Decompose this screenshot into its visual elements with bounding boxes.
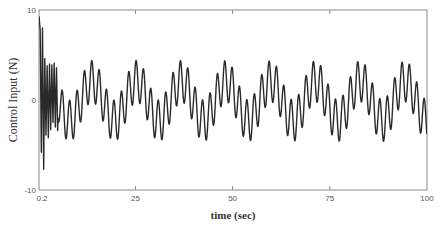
x-tick-label: 0.2: [36, 194, 48, 203]
y-tick-label: 0: [32, 96, 37, 105]
plot-area: 0.2255075100 -10010: [24, 6, 434, 203]
x-tick-label: 25: [131, 194, 140, 203]
y-axis-label: Control Input (N): [6, 58, 20, 143]
line-chart: 0.2255075100 -10010 time (sec) Control I…: [0, 0, 440, 230]
y-tick-label: 10: [27, 6, 36, 15]
x-axis-label: time (sec): [211, 209, 256, 222]
x-tick-label: 50: [228, 194, 237, 203]
plot-frame: [39, 10, 427, 190]
y-tick-label: -10: [24, 186, 36, 195]
x-tick-label: 100: [420, 194, 434, 203]
y-axis-ticks: -10010: [24, 6, 36, 195]
control-input-line: [39, 16, 427, 169]
x-tick-label: 75: [325, 194, 334, 203]
